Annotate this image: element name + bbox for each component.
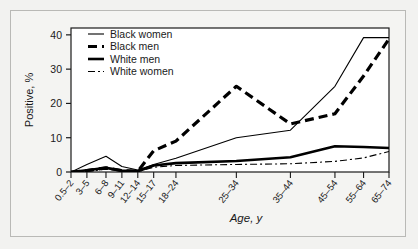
figure: 010203040Positive, %0.5–23–56–89–1112–14…	[0, 0, 418, 249]
x-axis-tick-label: 25–34	[216, 177, 241, 205]
y-axis-title: Positive, %	[23, 73, 35, 128]
legend-label-3: White women	[110, 65, 174, 77]
line-chart: 010203040Positive, %0.5–23–56–89–1112–14…	[0, 0, 418, 249]
legend-label-2: White men	[110, 53, 160, 65]
y-axis-tick-label: 0	[56, 166, 62, 178]
y-axis-tick-label: 30	[50, 63, 62, 75]
legend-label-1: Black men	[110, 40, 159, 52]
x-axis-tick-label: 65–74	[369, 177, 394, 205]
y-axis-tick-label: 20	[50, 97, 62, 109]
y-axis-tick-label: 10	[50, 132, 62, 144]
legend-label-0: Black women	[110, 28, 173, 40]
x-axis-tick-label: 55–64	[343, 177, 368, 205]
y-axis-tick-label: 40	[50, 29, 62, 41]
x-axis-title: Age, y	[229, 212, 264, 224]
x-axis-tick-label: 18–24	[156, 177, 181, 205]
x-axis-tick-label: 35–44	[270, 177, 295, 205]
x-axis-tick-label: 45–54	[315, 177, 340, 205]
x-axis-tick-label: 3–5	[73, 177, 91, 196]
